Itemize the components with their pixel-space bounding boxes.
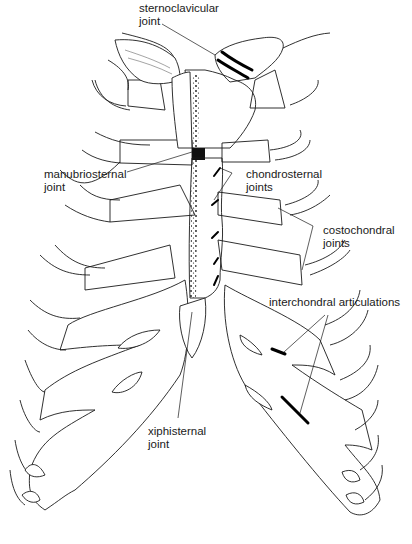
right-ribs bbox=[270, 33, 382, 500]
left-costal-margin bbox=[22, 280, 188, 510]
label-chondrosternal-joints: chondrosternal joints bbox=[246, 168, 322, 194]
interchondral-mark-lower bbox=[282, 397, 308, 423]
label-manubriosternal-joint: manubriosternal joint bbox=[44, 168, 126, 194]
label-sternoclavicular-joint: sternoclavicular joint bbox=[139, 2, 219, 28]
right-costal-margin bbox=[224, 285, 380, 515]
interchondral-mark-upper bbox=[272, 349, 285, 354]
label-interchondral-articulations: interchondral articulations bbox=[269, 296, 400, 309]
label-xiphisternal-joint: xiphisternal joint bbox=[148, 425, 206, 451]
sternal-body bbox=[189, 158, 222, 298]
label-costochondral-joints: costochondral joints bbox=[323, 224, 395, 250]
xiphoid-process bbox=[180, 298, 206, 358]
thoracic-cage-diagram bbox=[0, 0, 412, 544]
manubrium bbox=[172, 70, 256, 148]
